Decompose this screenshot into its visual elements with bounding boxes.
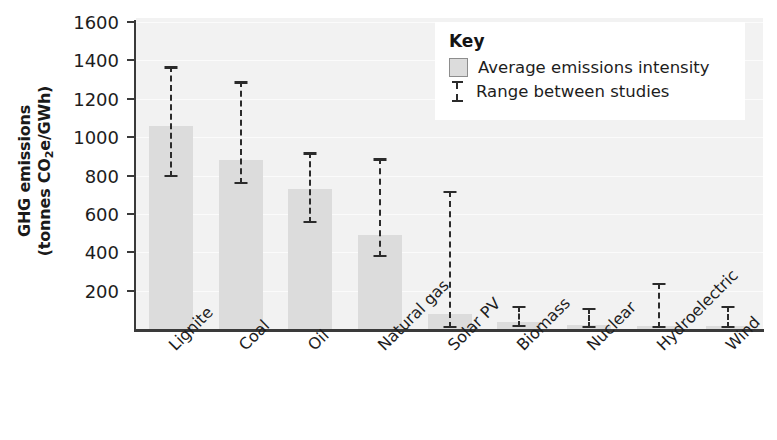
y-axis-tick-label: 200 [85,280,119,301]
y-axis-line [134,20,136,331]
y-axis-tick [127,175,134,177]
y-axis-tick-label: 1200 [73,88,119,109]
legend-item-label: Average emissions intensity [478,58,710,77]
y-axis-tick-label: 400 [85,242,119,263]
y-axis-tick [127,290,134,292]
y-axis-tick [127,98,134,100]
y-axis-tick [127,136,134,138]
y-axis-tick-label: 1600 [73,12,119,33]
legend: Key Average emissions intensity Range be… [435,22,745,120]
bar-coal [219,160,263,331]
legend-title: Key [449,31,733,51]
y-axis-tick-labels: 2004006008001000120014001600 [0,0,123,340]
y-axis-tick [127,59,134,61]
legend-item-average-emissions: Average emissions intensity [449,58,733,77]
legend-item-label: Range between studies [476,82,669,101]
y-axis-tick-label: 600 [85,203,119,224]
y-axis-tick [127,213,134,215]
legend-item-range-between-studies: Range between studies [449,81,733,102]
legend-swatch-icon [449,58,468,77]
y-axis-tick [127,21,134,23]
errorbar-icon [449,81,466,102]
grid-line [136,137,763,138]
y-axis-tick-label: 800 [85,165,119,186]
y-axis-tick-label: 1400 [73,50,119,71]
y-axis-tick-label: 1000 [73,127,119,148]
ghg-emissions-bar-chart: GHG emissions (tonnes CO2e/GWh) 20040060… [0,0,777,440]
y-axis-tick [127,251,134,253]
